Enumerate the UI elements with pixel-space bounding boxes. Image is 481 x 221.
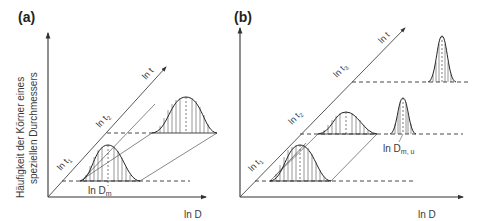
x-axis-label-b: ln D — [418, 209, 436, 220]
svg-text:ln t1: ln t1 — [246, 155, 265, 174]
svg-text:ln t2: ln t2 — [286, 108, 305, 127]
tick-ln-t1: ln t1 — [55, 154, 74, 173]
tick-ln-t2: ln t2 — [94, 111, 113, 130]
tick-ln-t3-b: ln t3 — [331, 61, 350, 80]
distribution-t3-b — [428, 36, 456, 82]
connector-right-b — [331, 134, 377, 181]
y-axis-label-line2: speziellen Durchmessers — [28, 72, 39, 184]
connector-upper — [84, 104, 155, 178]
time-axis-label: ln t — [140, 65, 156, 81]
tick-ln-t2-b: ln t2 — [286, 108, 305, 127]
connector-right — [140, 133, 217, 181]
grain-growth-diagram: (a) Häufigkeit der Körner eines speziell… — [0, 0, 481, 221]
svg-text:ln t3: ln t3 — [331, 61, 350, 80]
panel-a-label: (a) — [18, 9, 35, 25]
mean-diameter-upper-label: ln Dm, u — [383, 143, 415, 155]
distribution-t2 — [152, 97, 217, 133]
panel-a: (a) Häufigkeit der Körner eines speziell… — [15, 9, 217, 220]
mean-diameter-label: ln Dm — [88, 185, 112, 197]
svg-text:ln t1: ln t1 — [55, 154, 74, 173]
connector-left — [80, 133, 152, 181]
distribution-t2-narrow-b — [390, 98, 416, 142]
distribution-t2-b — [318, 112, 377, 134]
svg-text:ln t2: ln t2 — [94, 111, 113, 130]
tick-ln-t1-b: ln t1 — [246, 155, 265, 174]
panel-b-label: (b) — [234, 9, 252, 25]
time-axis-b — [240, 28, 405, 197]
y-axis-label-line1: Häufigkeit der Körner eines — [15, 77, 26, 198]
time-axis — [48, 67, 166, 197]
x-axis-label: ln D — [184, 209, 202, 220]
panel-b: (b) ln D ln t ln t1 ln t2 ln t3 — [234, 9, 468, 220]
distribution-t1-b — [270, 145, 331, 181]
